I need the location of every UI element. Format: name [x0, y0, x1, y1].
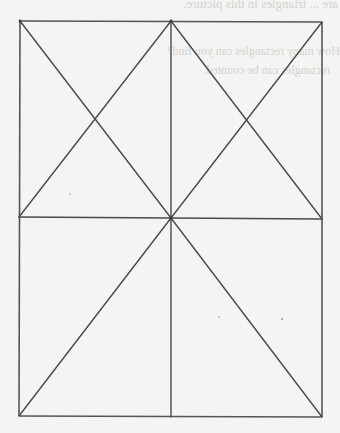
geometry-figure: [0, 0, 340, 433]
scan-speck: [281, 318, 283, 320]
lower-left-diagonal: [19, 218, 171, 416]
vertex-dot: [170, 217, 173, 220]
figure-segments: [19, 20, 322, 417]
left-edge: [19, 21, 20, 416]
scan-speck: [218, 316, 220, 318]
lower-right-diagonal: [171, 218, 322, 417]
scan-speck: [69, 193, 71, 195]
vertex-dot: [19, 20, 22, 23]
worksheet-page: are ... triangles in this picture. How m…: [0, 0, 340, 433]
vertex-dot: [170, 20, 173, 23]
